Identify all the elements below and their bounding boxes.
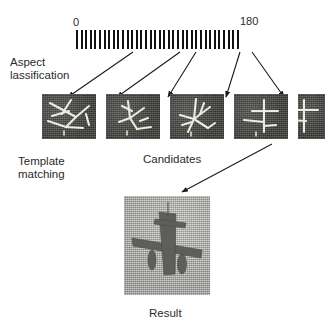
candidate-4-wireframe bbox=[234, 94, 288, 139]
candidate-1-wireframe bbox=[42, 94, 96, 139]
result-aircraft bbox=[124, 196, 210, 295]
arrow-to-candidate-3 bbox=[168, 52, 196, 97]
arrow-to-result bbox=[182, 144, 272, 192]
arrow-to-candidate-4 bbox=[226, 52, 240, 97]
candidate-5-wireframe bbox=[298, 94, 325, 139]
arrow-to-candidate-1 bbox=[68, 52, 133, 97]
candidate-2-wireframe bbox=[106, 94, 160, 139]
candidate-3-wireframe bbox=[170, 94, 224, 139]
candidate-thumbnail-5[interactable] bbox=[298, 94, 325, 139]
arrow-to-candidate-2 bbox=[117, 52, 180, 97]
candidate-thumbnail-4[interactable] bbox=[234, 94, 288, 139]
aspect-classification-diagram: 0 180 Aspect lassification Template matc… bbox=[0, 0, 325, 331]
result-image[interactable] bbox=[124, 196, 210, 295]
candidate-thumbnail-2[interactable] bbox=[106, 94, 160, 139]
arrow-to-candidate-5 bbox=[252, 52, 284, 97]
candidate-thumbnail-3[interactable] bbox=[170, 94, 224, 139]
candidate-thumbnail-1[interactable] bbox=[42, 94, 96, 139]
